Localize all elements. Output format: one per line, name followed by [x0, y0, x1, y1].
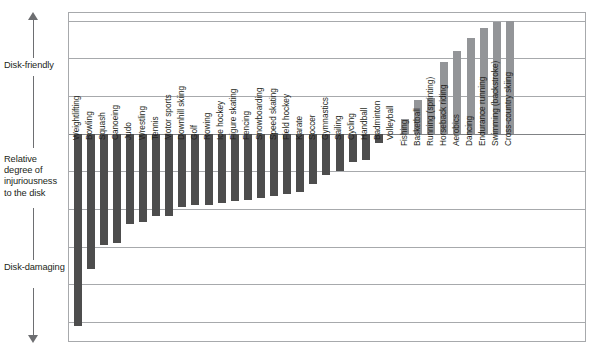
plot-area: WeightliftingBowlingSquashCanoeingJudoWr…: [68, 12, 586, 342]
category-label: Volleyball: [386, 105, 395, 140]
down-arrow-shaft-upper: [33, 208, 34, 260]
arrow-up-icon: [28, 12, 38, 20]
category-label: Fencing: [242, 110, 251, 139]
category-label: Karate: [295, 115, 304, 139]
category-label: Handball: [360, 107, 369, 139]
category-label: Gymnastics: [321, 97, 330, 140]
category-label: Field hockey: [282, 94, 291, 140]
category-label: Tennis: [151, 116, 160, 140]
category-label: Ice hockey: [216, 100, 225, 139]
category-label: Downhill skiing: [177, 86, 186, 140]
category-label: Running (sprinting): [426, 76, 435, 145]
category-label: Soccer: [308, 114, 317, 140]
axis-label-disk-damaging: Disk-damaging: [4, 262, 66, 273]
up-arrow-shaft-lower: [33, 76, 34, 148]
category-label: Snowboarding: [255, 87, 264, 139]
category-label: Basketball: [413, 108, 422, 146]
category-label: Canoeing: [111, 105, 120, 140]
category-label: Bowling: [85, 111, 94, 140]
category-label: Fishing: [400, 119, 409, 145]
category-label: Horseback riding: [439, 84, 448, 145]
category-label: Sailing: [334, 115, 343, 140]
category-label: Cross-country skiing: [504, 71, 513, 145]
category-label: Motor sports: [164, 94, 173, 140]
category-label: Swimming (backstroke): [491, 60, 500, 145]
category-label: Golf: [190, 125, 199, 140]
category-label: Figure skating: [229, 88, 238, 139]
category-label: Badminton: [373, 100, 382, 139]
category-label: Wrestling: [138, 106, 147, 140]
category-label: Judo: [124, 122, 133, 140]
category-label: Rowing: [203, 112, 212, 139]
axis-label-relative-degree: Relative degree of injuriousness to the …: [4, 154, 66, 199]
category-label: Speed skating: [269, 88, 278, 140]
category-label: Endurance running: [478, 76, 487, 145]
axis-label-disk-friendly: Disk-friendly: [4, 60, 66, 71]
category-label: Squash: [98, 112, 107, 140]
category-label: Weightlifting: [72, 95, 81, 139]
category-label: Aerobics: [452, 114, 461, 146]
category-label: Cycling: [347, 113, 356, 140]
up-arrow-shaft: [33, 20, 34, 58]
arrow-down-icon: [28, 335, 38, 343]
category-label: Dancing: [465, 116, 474, 146]
down-arrow-shaft-lower: [33, 288, 34, 335]
axis-annotation-column: Disk-friendly Relative degree of injurio…: [0, 0, 68, 353]
category-labels: WeightliftingBowlingSquashCanoeingJudoWr…: [69, 13, 585, 341]
chart-figure: Disk-friendly Relative degree of injurio…: [0, 0, 594, 353]
